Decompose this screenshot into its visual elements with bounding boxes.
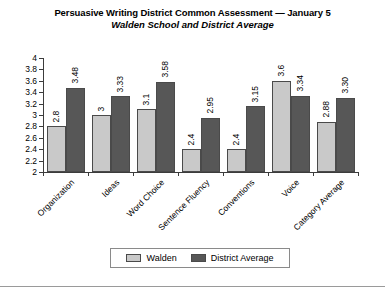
y-axis-tick-label: 3.2 bbox=[25, 99, 37, 108]
legend-swatch-icon bbox=[191, 254, 206, 262]
x-axis-category-text: Word Choice bbox=[125, 178, 166, 219]
bar[interactable] bbox=[137, 109, 156, 172]
bar-value-label: 2.8 bbox=[52, 111, 61, 123]
bar-value-label: 3.6 bbox=[277, 65, 286, 77]
chart-title: Persuasive Writing District Common Asses… bbox=[0, 7, 385, 18]
x-axis-tick bbox=[133, 172, 134, 176]
bar-value-label: 3.15 bbox=[251, 86, 260, 103]
bar-value-label: 3.58 bbox=[161, 61, 170, 78]
bar[interactable] bbox=[47, 126, 66, 172]
x-axis-category-text: Voice bbox=[280, 178, 301, 199]
bar-value-label: 3.1 bbox=[142, 93, 151, 105]
x-axis-category-text: Organization bbox=[35, 178, 75, 218]
bar-value-label: 3.30 bbox=[341, 77, 350, 94]
bar[interactable] bbox=[66, 88, 85, 172]
y-axis-tick-label: 3.6 bbox=[25, 77, 37, 86]
x-axis-category-text: Ideas bbox=[100, 178, 121, 199]
y-axis-tick-label: 4 bbox=[32, 54, 37, 63]
y-axis-tick-label: 3.4 bbox=[25, 88, 37, 97]
y-axis-tick-label: 3.8 bbox=[25, 65, 37, 74]
bar-value-label: 3.48 bbox=[71, 67, 80, 84]
chart-subtitle: Walden School and District Average bbox=[0, 19, 385, 30]
y-axis-tick-label: 2.8 bbox=[25, 122, 37, 131]
x-axis-tick bbox=[358, 172, 359, 176]
y-axis-tick-label: 3 bbox=[32, 111, 37, 120]
bar[interactable] bbox=[111, 96, 130, 172]
y-axis-tick-label: 2.6 bbox=[25, 134, 37, 143]
x-axis-tick bbox=[88, 172, 89, 176]
bar-value-label: 3 bbox=[97, 106, 106, 111]
x-axis-tick bbox=[223, 172, 224, 176]
y-axis-tick-label: 2.2 bbox=[25, 156, 37, 165]
legend-swatch-icon bbox=[126, 254, 141, 262]
footer-divider bbox=[0, 286, 385, 287]
x-axis-tick bbox=[313, 172, 314, 176]
y-axis-tick-label: 2.4 bbox=[25, 145, 37, 154]
bar-group: 2.83.48 bbox=[47, 58, 85, 172]
legend-item[interactable]: District Average bbox=[191, 254, 274, 263]
legend-label: District Average bbox=[211, 254, 274, 263]
bar-group: 3.13.58 bbox=[137, 58, 175, 172]
x-axis-tick bbox=[43, 172, 44, 176]
bar-group: 2.883.30 bbox=[317, 58, 355, 172]
x-axis-category-text: Conventions bbox=[216, 178, 256, 218]
y-axis-tick-label: 2 bbox=[32, 168, 37, 177]
bar-value-label: 2.88 bbox=[322, 101, 331, 118]
bar[interactable] bbox=[317, 122, 336, 172]
bar-value-label: 3.33 bbox=[116, 76, 125, 93]
x-axis-tick bbox=[178, 172, 179, 176]
bar[interactable] bbox=[201, 118, 220, 172]
bar[interactable] bbox=[291, 96, 310, 172]
x-axis-tick bbox=[268, 172, 269, 176]
plot-area: 2.83.4833.333.13.582.42.952.43.153.63.34… bbox=[43, 58, 358, 172]
legend-label: Walden bbox=[146, 254, 176, 263]
bar[interactable] bbox=[336, 98, 355, 172]
legend-item[interactable]: Walden bbox=[126, 254, 176, 263]
bar[interactable] bbox=[156, 82, 175, 172]
y-axis-ticks: 43.83.63.43.232.82.62.42.22 bbox=[0, 58, 43, 173]
x-axis-category-text: Category Average bbox=[291, 178, 345, 232]
chart-legend: WaldenDistrict Average bbox=[110, 248, 290, 268]
bar-value-label: 3.34 bbox=[296, 75, 305, 92]
bar-value-label: 2.95 bbox=[206, 97, 215, 114]
